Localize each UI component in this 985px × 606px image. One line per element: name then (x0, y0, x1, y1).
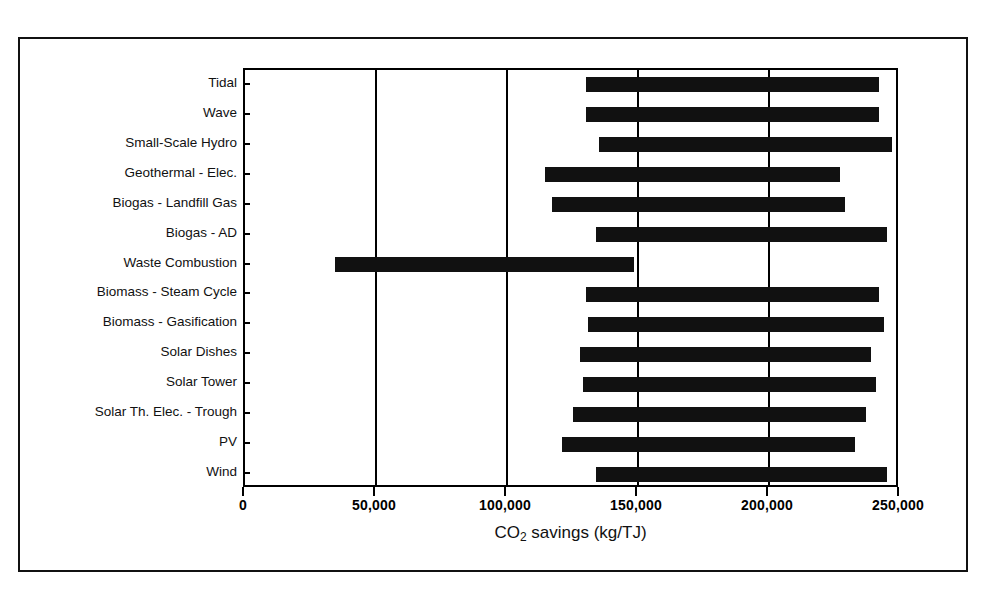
y-axis-tick (243, 233, 250, 235)
x-axis-tick (242, 487, 244, 496)
gridline-150000 (637, 70, 639, 485)
y-axis-tick (243, 203, 250, 205)
y-axis-tick (243, 442, 250, 444)
bar (580, 347, 871, 362)
y-axis-tick (243, 472, 250, 474)
y-axis-tick (243, 292, 250, 294)
y-axis-label: Biomass - Gasification (17, 314, 237, 330)
y-axis-tick (243, 352, 250, 354)
x-axis-title: CO2 savings (kg/TJ) (243, 523, 898, 543)
y-axis-label: Wind (17, 464, 237, 480)
y-axis-label: Tidal (17, 75, 237, 91)
y-axis-label: Small-Scale Hydro (17, 135, 237, 151)
figure-page: TidalWaveSmall-Scale HydroGeothermal - E… (0, 0, 985, 606)
x-axis-title-subscript: 2 (520, 530, 527, 544)
y-axis-label: Geothermal - Elec. (17, 165, 237, 181)
y-axis-tick (243, 143, 250, 145)
bar (573, 407, 866, 422)
y-axis-label: Wave (17, 105, 237, 121)
bar-chart: TidalWaveSmall-Scale HydroGeothermal - E… (0, 0, 985, 606)
y-axis-label: Solar Th. Elec. - Trough (17, 404, 237, 420)
bar (586, 287, 879, 302)
bar (599, 137, 892, 152)
x-axis-tick (635, 487, 637, 496)
y-axis-tick (243, 322, 250, 324)
bar (545, 167, 840, 182)
y-axis-tick (243, 263, 250, 265)
y-axis-label: PV (17, 434, 237, 450)
plot-area (243, 68, 898, 487)
bar (596, 227, 887, 242)
y-axis-label: Solar Tower (17, 374, 237, 390)
x-axis-tick (897, 487, 899, 496)
y-axis-tick (243, 113, 250, 115)
x-axis-label: 100,000 (455, 497, 555, 513)
y-axis-label: Biogas - AD (17, 225, 237, 241)
gridline-100000 (506, 70, 508, 485)
x-axis-title-suffix: savings (kg/TJ) (527, 523, 647, 542)
y-axis-label: Waste Combustion (17, 255, 237, 271)
y-axis-tick (243, 412, 250, 414)
y-axis-tick (243, 173, 250, 175)
bar (335, 257, 634, 272)
bar (562, 437, 855, 452)
x-axis-tick (504, 487, 506, 496)
x-axis-tick (766, 487, 768, 496)
y-axis-label: Biogas - Landfill Gas (17, 195, 237, 211)
bar (588, 317, 884, 332)
y-axis-tick (243, 382, 250, 384)
y-axis-tick (243, 83, 250, 85)
gridline-200000 (768, 70, 770, 485)
x-axis-title-prefix: CO (494, 523, 520, 542)
x-axis-label: 250,000 (848, 497, 948, 513)
bar (586, 107, 879, 122)
gridline-50000 (375, 70, 377, 485)
x-axis-label: 50,000 (324, 497, 424, 513)
x-axis-label: 200,000 (717, 497, 817, 513)
y-axis-labels: TidalWaveSmall-Scale HydroGeothermal - E… (12, 68, 237, 487)
x-axis-tick (373, 487, 375, 496)
y-axis-label: Biomass - Steam Cycle (17, 284, 237, 300)
x-axis-label: 150,000 (586, 497, 686, 513)
y-axis-label: Solar Dishes (17, 344, 237, 360)
x-axis-label: 0 (193, 497, 293, 513)
bar (596, 467, 887, 482)
bar (583, 377, 876, 392)
bar (552, 197, 845, 212)
bar (586, 77, 879, 92)
